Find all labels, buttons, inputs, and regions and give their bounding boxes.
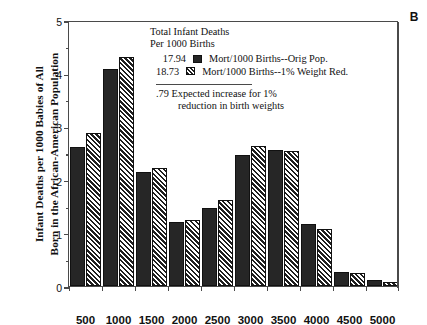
- bar: [202, 208, 217, 286]
- y-tick-label: 2: [56, 176, 62, 188]
- legend: Total Infant Deaths Per 1000 Births 17.9…: [150, 26, 335, 113]
- y-tick-label: 0: [56, 282, 62, 294]
- x-tick: [102, 286, 103, 291]
- legend-divider: [156, 84, 252, 85]
- x-tick-label: 4500: [337, 314, 363, 325]
- bar: [103, 69, 118, 286]
- y-axis-title-line-1: Infant Deaths per 1000 Babies of All: [32, 66, 47, 242]
- x-tick-label: 500: [76, 314, 95, 325]
- bar: [268, 150, 283, 286]
- x-tick: [300, 286, 301, 291]
- bar: [70, 147, 85, 286]
- legend-swatch-solid: [193, 55, 202, 63]
- bar: [235, 155, 250, 286]
- y-tick-minor: [66, 261, 69, 262]
- x-tick-label: 2500: [205, 314, 231, 325]
- y-tick-major: [64, 234, 69, 235]
- bar: [218, 200, 233, 286]
- bar: [301, 224, 316, 286]
- legend-total-value: 18.73: [156, 66, 179, 77]
- legend-rows: 17.94Mort/1000 Births--Orig Pop.18.73Mor…: [156, 52, 335, 77]
- legend-row: 17.94Mort/1000 Births--Orig Pop.: [156, 52, 335, 65]
- y-tick-major: [64, 128, 69, 129]
- y-axis-title: Infant Deaths per 1000 Babies of All Bor…: [0, 0, 52, 300]
- y-tick-label: 1: [56, 229, 62, 241]
- legend-annotation: .79 Expected increase for 1% reduction i…: [156, 88, 335, 113]
- y-tick-label: 4: [56, 69, 62, 81]
- x-tick: [398, 286, 399, 291]
- bar: [136, 172, 151, 286]
- bar: [350, 273, 365, 286]
- x-tick: [234, 286, 235, 291]
- bar: [185, 220, 200, 287]
- x-tick-label: 3000: [238, 314, 264, 325]
- y-tick-major: [64, 75, 69, 76]
- x-tick: [69, 286, 70, 291]
- bar: [169, 222, 184, 286]
- legend-series-label: Mort/1000 Births--1% Weight Red.: [202, 66, 348, 77]
- y-tick-major: [64, 181, 69, 182]
- bar: [152, 168, 167, 286]
- y-axis-title-line-2: Born in the African-American Population: [47, 53, 62, 256]
- y-tick-minor: [66, 48, 69, 49]
- legend-row: 18.73Mort/1000 Births--1% Weight Red.: [156, 65, 335, 78]
- bar: [86, 133, 101, 286]
- bar: [383, 282, 398, 286]
- bar: [334, 272, 349, 286]
- bar: [251, 146, 266, 286]
- y-tick-minor: [66, 154, 69, 155]
- x-tick: [201, 286, 202, 291]
- panel-letter: B: [410, 10, 419, 24]
- x-tick-label: 2000: [172, 314, 198, 325]
- legend-swatch-hatch: [186, 67, 195, 75]
- x-tick: [333, 286, 334, 291]
- legend-series-label: Mort/1000 Births--Orig Pop.: [209, 53, 328, 64]
- y-tick-minor: [66, 208, 69, 209]
- y-tick-minor: [66, 101, 69, 102]
- x-tick-label: 1000: [106, 314, 132, 325]
- y-tick-major: [64, 21, 69, 22]
- legend-total-value: 17.94: [156, 53, 186, 64]
- legend-annotation-line-1: .79 Expected increase for 1%: [156, 88, 277, 99]
- x-tick-label: 1500: [139, 314, 165, 325]
- x-tick-label: 5000: [370, 314, 396, 325]
- legend-annotation-line-2: reduction in birth weights: [156, 100, 335, 112]
- x-tick: [168, 286, 169, 291]
- legend-header-line-2: Per 1000 Births: [150, 38, 335, 50]
- x-tick-label: 3500: [271, 314, 297, 325]
- bar: [119, 57, 134, 286]
- figure-panel-b: B Infant Deaths per 1000 Babies of All B…: [0, 0, 427, 325]
- bar: [317, 229, 332, 286]
- x-tick: [135, 286, 136, 291]
- x-tick: [267, 286, 268, 291]
- legend-header-line-1: Total Infant Deaths: [150, 26, 335, 38]
- y-tick-label: 3: [56, 122, 62, 134]
- x-tick: [366, 286, 367, 291]
- y-tick-label: 5: [56, 16, 62, 28]
- x-tick-label: 4000: [304, 314, 330, 325]
- bar: [367, 280, 382, 286]
- bar: [284, 151, 299, 286]
